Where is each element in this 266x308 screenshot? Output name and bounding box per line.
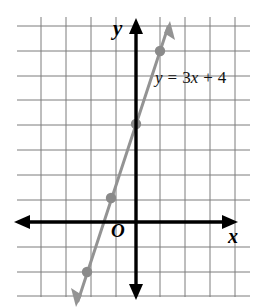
equation-constant: 4 — [218, 68, 227, 87]
y-axis — [129, 18, 143, 300]
y-axis-arrow-down — [129, 284, 143, 300]
origin-label: O — [111, 221, 125, 240]
grid-horizontal-lines — [17, 26, 250, 296]
equation-annotation: y=3x+4 — [155, 69, 226, 86]
y-axis-label: y — [113, 18, 122, 39]
equation-y-term: y — [155, 68, 163, 87]
x-axis-label: x — [228, 226, 238, 246]
plotted-line-group — [71, 21, 175, 307]
data-point — [106, 193, 116, 203]
graph-figure: y x O y=3x+4 — [0, 0, 266, 308]
equation-coefficient: 3 — [182, 68, 191, 87]
coordinate-plane — [0, 0, 266, 308]
data-point — [155, 46, 165, 56]
equation-equals-sign: = — [163, 68, 183, 87]
data-point — [82, 267, 92, 277]
equation-plus-sign: + — [198, 68, 218, 87]
x-axis — [14, 215, 238, 229]
grid-vertical-lines — [41, 17, 235, 297]
x-axis-arrow-left — [14, 215, 30, 229]
